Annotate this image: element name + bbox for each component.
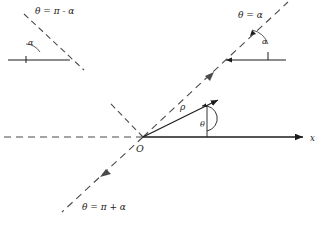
theta-alpha-dashed-ray [143,2,288,137]
annotation-top-left: θ = π - α [35,6,74,16]
origin-dashed-stub [110,103,143,137]
inset-right-group: α θ = α [226,10,286,63]
polar-coordinate-diagram: α θ = π - α α θ = α x [0,0,324,226]
inset-left-group: α θ = π - α [8,6,84,70]
origin-label: O [136,143,144,154]
rho-label: ρ [179,102,186,112]
annotation-top-right: θ = α [238,10,263,20]
inset-left-angle-label: α [28,38,34,47]
annotation-bottom-left: θ = π + α [82,202,126,212]
theta-pi-plus-alpha-ray-arrow [100,169,111,177]
inset-right-angle-label: α [262,37,268,46]
diagram-canvas: α θ = π - α α θ = α x [0,0,324,226]
inset-right-baseline-arrow [226,58,232,63]
theta-alpha-ray-arrow [205,72,214,81]
theta-label: θ [200,120,205,129]
x-axis-label: x [310,133,315,143]
